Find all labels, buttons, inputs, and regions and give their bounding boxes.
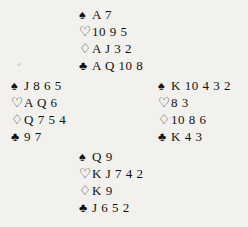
hand-north: ♠ A 7 ♡ 10 9 5 ♢ A J 3 2 ♣ A Q 10 8: [79, 6, 143, 74]
heart-icon: ♡: [158, 94, 171, 111]
hand-south-clubs-cards: J 6 5 2: [92, 199, 130, 216]
hand-south-hearts-cards: K J 7 4 2: [92, 165, 143, 182]
heart-icon: ♡: [11, 94, 24, 111]
scan-artifact-speck: [17, 63, 21, 66]
hand-east-clubs-line: ♣ K 4 3: [158, 128, 231, 145]
spade-icon: ♠: [79, 149, 92, 166]
hand-east-spades-line: ♠ K 10 4 3 2: [158, 77, 231, 94]
spade-icon: ♠: [11, 78, 24, 95]
hand-east-clubs-cards: K 4 3: [171, 128, 202, 145]
hand-south-diamonds-line: ♢ K 9: [79, 182, 143, 199]
hand-east-diamonds-cards: 10 8 6: [171, 111, 207, 128]
hand-east-hearts-line: ♡ 8 3: [158, 94, 231, 111]
hand-west-hearts-cards: A Q 6: [24, 94, 58, 111]
club-icon: ♣: [158, 129, 171, 146]
hand-south: ♠ Q 9 ♡ K J 7 4 2 ♢ K 9 ♣ J 6 5 2: [79, 148, 143, 216]
hand-north-spades-cards: A 7: [92, 6, 112, 23]
hand-east-diamonds-line: ♢ 10 8 6: [158, 111, 231, 128]
club-icon: ♣: [79, 58, 92, 75]
club-icon: ♣: [11, 129, 24, 146]
hand-south-spades-line: ♠ Q 9: [79, 148, 143, 165]
hand-west: ♠ J 8 6 5 ♡ A Q 6 ♢ Q 7 5 4 ♣ 9 7: [11, 77, 66, 145]
hand-north-hearts-cards: 10 9 5: [92, 23, 128, 40]
hand-west-diamonds-line: ♢ Q 7 5 4: [11, 111, 66, 128]
diamond-icon: ♢: [11, 111, 24, 128]
hand-west-spades-line: ♠ J 8 6 5: [11, 77, 66, 94]
hand-north-diamonds-line: ♢ A J 3 2: [79, 40, 143, 57]
hand-north-spades-line: ♠ A 7: [79, 6, 143, 23]
diamond-icon: ♢: [158, 111, 171, 128]
hand-north-hearts-line: ♡ 10 9 5: [79, 23, 143, 40]
hand-south-hearts-line: ♡ K J 7 4 2: [79, 165, 143, 182]
club-icon: ♣: [79, 200, 92, 217]
spade-icon: ♠: [158, 78, 171, 95]
hand-west-clubs-cards: 9 7: [24, 128, 42, 145]
diamond-icon: ♢: [79, 40, 92, 57]
hand-west-hearts-line: ♡ A Q 6: [11, 94, 66, 111]
heart-icon: ♡: [79, 23, 92, 40]
spade-icon: ♠: [79, 7, 92, 24]
hand-east-spades-cards: K 10 4 3 2: [171, 77, 231, 94]
hand-north-clubs-cards: A Q 10 8: [92, 57, 143, 74]
hand-north-diamonds-cards: A J 3 2: [92, 40, 132, 57]
hand-east-hearts-cards: 8 3: [171, 94, 189, 111]
hand-south-diamonds-cards: K 9: [92, 182, 113, 199]
heart-icon: ♡: [79, 165, 92, 182]
hand-south-spades-cards: Q 9: [92, 148, 113, 165]
hand-south-clubs-line: ♣ J 6 5 2: [79, 199, 143, 216]
diamond-icon: ♢: [79, 182, 92, 199]
bridge-deal-diagram: ♠ A 7 ♡ 10 9 5 ♢ A J 3 2 ♣ A Q 10 8 ♠ J …: [0, 0, 248, 227]
hand-east: ♠ K 10 4 3 2 ♡ 8 3 ♢ 10 8 6 ♣ K 4 3: [158, 77, 231, 145]
hand-west-clubs-line: ♣ 9 7: [11, 128, 66, 145]
hand-west-diamonds-cards: Q 7 5 4: [24, 111, 66, 128]
hand-north-clubs-line: ♣ A Q 10 8: [79, 57, 143, 74]
hand-west-spades-cards: J 8 6 5: [24, 77, 62, 94]
